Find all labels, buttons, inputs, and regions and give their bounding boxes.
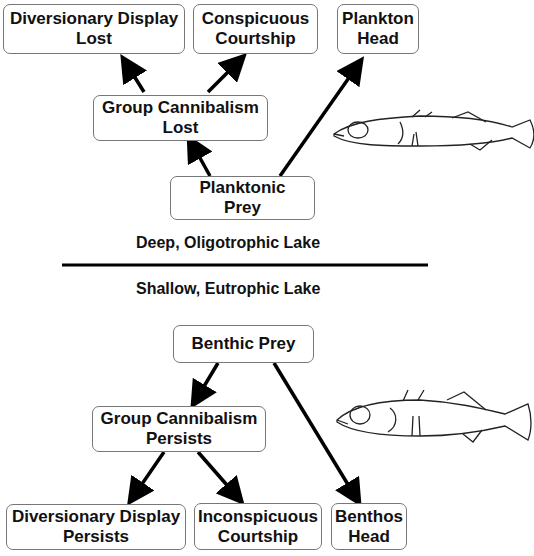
arrow-cannibalism-to-conspicuous (208, 58, 242, 92)
node-group-cannibalism-persists: Group Cannibalism Persists (92, 406, 266, 452)
node-group-cannibalism-lost: Group Cannibalism Lost (93, 95, 268, 141)
benthic-fish-icon (337, 390, 531, 442)
shallow-lake-label: Shallow, Eutrophic Lake (136, 280, 320, 298)
limnetic-fish-icon (334, 110, 534, 150)
node-inconspicuous-courtship: Inconspicuous Courtship (194, 503, 322, 550)
arrow-planktonic-to-plankton-head (280, 62, 360, 176)
deep-lake-label: Deep, Oligotrophic Lake (136, 234, 320, 252)
node-conspicuous-courtship: Conspicuous Courtship (193, 4, 318, 54)
node-diversionary-display-persists: Diversionary Display Persists (6, 504, 186, 550)
arrow-benthic-to-benthos-head (274, 363, 358, 501)
node-diversionary-display-lost: Diversionary Display Lost (3, 4, 185, 54)
arrows-layer (0, 0, 534, 556)
arrow-cannibalism-to-diversionary (124, 60, 144, 92)
arrow-planktonic-to-cannibalism (190, 140, 210, 176)
node-benthos-head: Benthos Head (331, 503, 407, 550)
node-benthic-prey: Benthic Prey (173, 325, 314, 363)
arrow-benthic-to-cannibalism (194, 363, 218, 403)
node-planktonic-prey: Planktonic Prey (170, 176, 315, 220)
arrow-cannibalism-to-inconspicuous (198, 452, 240, 500)
node-plankton-head: Plankton Head (337, 4, 419, 54)
arrow-cannibalism-to-div-persists (131, 452, 164, 500)
